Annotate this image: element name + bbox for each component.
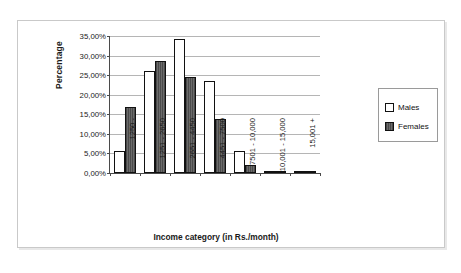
y-tick-label: 20,00% bbox=[46, 90, 106, 99]
legend-item-females: Females bbox=[385, 122, 432, 131]
x-tick-label: 15,001 + bbox=[308, 118, 317, 178]
bar-males bbox=[144, 71, 155, 173]
bar-males bbox=[114, 151, 125, 173]
x-tick-mark bbox=[170, 173, 171, 176]
chart-legend: Males Females bbox=[378, 88, 438, 142]
x-tick-label: 1250 - bbox=[128, 118, 137, 178]
x-tick-label: 7501 - 10,000 bbox=[248, 118, 257, 178]
y-tick-label: 5,00% bbox=[46, 149, 106, 158]
y-tick-label: 0,00% bbox=[46, 169, 106, 178]
bar-males bbox=[294, 171, 305, 173]
y-tick-label: 35,00% bbox=[46, 32, 106, 41]
x-tick-mark bbox=[320, 173, 321, 176]
legend-label-females: Females bbox=[398, 122, 429, 131]
bar-males bbox=[234, 151, 245, 173]
y-tick-label: 30,00% bbox=[46, 51, 106, 60]
x-tick-label: 2651 - 4450 bbox=[188, 118, 197, 178]
x-tick-label: 10,001 - 15,000 bbox=[278, 118, 287, 178]
y-axis-title: Percentage bbox=[54, 5, 64, 125]
y-tick-label: 25,00% bbox=[46, 71, 106, 80]
x-tick-mark bbox=[290, 173, 291, 176]
x-tick-mark bbox=[230, 173, 231, 176]
x-tick-mark bbox=[140, 173, 141, 176]
legend-item-males: Males bbox=[385, 103, 432, 112]
legend-swatch-females-icon bbox=[385, 122, 394, 131]
bar-groups bbox=[110, 36, 320, 173]
y-tick-label: 15,00% bbox=[46, 110, 106, 119]
x-tick-mark bbox=[200, 173, 201, 176]
bar-males bbox=[264, 171, 275, 173]
x-tick-mark bbox=[260, 173, 261, 176]
x-tick-label: 4451 - 7500 bbox=[218, 118, 227, 178]
legend-swatch-males-icon bbox=[385, 103, 394, 112]
y-tick-label: 10,00% bbox=[46, 129, 106, 138]
plot-area: 0,00%5,00%10,00%15,00%20,00%25,00%30,00%… bbox=[110, 36, 320, 173]
bar-males bbox=[204, 81, 215, 173]
x-tick-label: 1251 - 2650 bbox=[158, 118, 167, 178]
x-axis-title: Income category (in Rs./month) bbox=[110, 232, 322, 242]
x-tick-mark bbox=[110, 173, 111, 176]
legend-label-males: Males bbox=[398, 103, 419, 112]
bar-males bbox=[174, 39, 185, 173]
